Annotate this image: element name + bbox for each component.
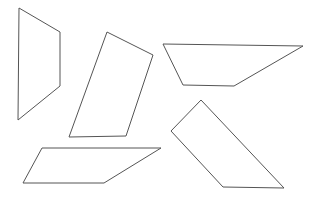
quadrilateral-3 [163, 44, 303, 86]
shapes-canvas [0, 0, 315, 199]
quadrilateral-5 [171, 100, 284, 188]
quadrilateral-2 [69, 32, 153, 137]
quadrilateral-4 [23, 148, 161, 183]
quadrilateral-1 [18, 8, 60, 120]
